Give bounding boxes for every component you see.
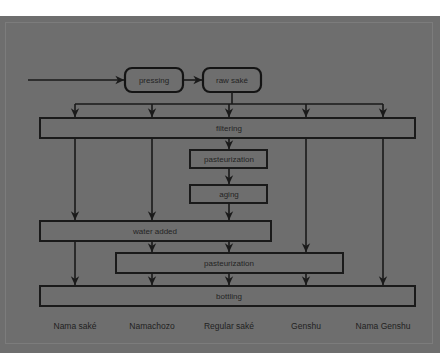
node-filtering-label: filtering xyxy=(216,124,242,133)
node-pasteurization-1: pasteurization xyxy=(190,150,267,168)
node-pressing: pressing xyxy=(125,68,183,92)
page-root: pressing raw saké filtering xyxy=(0,0,440,353)
output-labels: Nama saké Namachozo Regular saké Genshu … xyxy=(54,321,411,331)
edge-water-added-to-pasteurization-2 xyxy=(152,241,229,252)
node-raw-sake: raw saké xyxy=(203,68,261,92)
node-aging: aging xyxy=(190,185,267,203)
node-pasteurization-2-label: pasteurization xyxy=(204,259,254,268)
flowchart-svg: pressing raw saké filtering xyxy=(0,0,440,353)
output-label-nama-genshu: Nama Genshu xyxy=(356,321,411,331)
node-pasteurization-2: pasteurization xyxy=(116,253,343,273)
edge-pasteurization-2-to-bottling xyxy=(152,273,306,285)
node-raw-sake-label: raw saké xyxy=(216,76,249,85)
node-pasteurization-1-label: pasteurization xyxy=(204,155,254,164)
node-bottling-label: bottling xyxy=(216,292,242,301)
output-label-regular-sake: Regular saké xyxy=(204,321,254,331)
node-water-added-label: water added xyxy=(132,227,177,236)
edge-filtering-to-water-added xyxy=(75,138,152,220)
output-label-namachozo: Namachozo xyxy=(129,321,175,331)
node-pressing-label: pressing xyxy=(139,76,169,85)
node-aging-label: aging xyxy=(219,190,239,199)
node-filtering: filtering xyxy=(40,118,415,138)
node-bottling: bottling xyxy=(40,286,415,306)
output-label-nama-sake: Nama saké xyxy=(54,321,97,331)
node-water-added: water added xyxy=(40,221,271,241)
edge-bus-raw-sake-to-filtering xyxy=(75,92,383,117)
output-label-genshu: Genshu xyxy=(291,321,321,331)
